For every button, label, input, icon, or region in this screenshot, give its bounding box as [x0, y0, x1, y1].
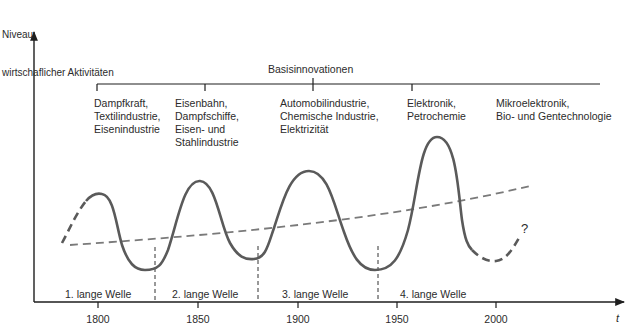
innovation-group-3: Automobilindustrie, Chemische Industrie,… — [280, 97, 379, 136]
wave-label-1: 1. lange Welle — [65, 288, 131, 301]
bracket-title: Basisinnovationen — [268, 63, 353, 76]
cycle-curve-start-dashed — [62, 201, 86, 243]
x-tick-1900: 1900 — [286, 313, 309, 326]
innovation-group-2: Eisenbahn, Dampfschiffe, Eisen- und Stah… — [175, 97, 239, 149]
innovation-group-5: Mikroelektronik, Bio- und Gentechnologie — [496, 97, 612, 123]
cycle-curve — [86, 137, 472, 270]
wave-label-2: 2. lange Welle — [172, 288, 238, 301]
y-axis-label: Niveau wirtschaflicher Aktivitäten — [2, 4, 114, 104]
innovation-group-4: Elektronik, Petrochemie — [407, 97, 466, 123]
x-tick-1850: 1850 — [186, 313, 209, 326]
y-axis-label-line2: wirtschaflicher Aktivitäten — [2, 67, 114, 80]
x-tick-2000: 2000 — [484, 313, 507, 326]
y-axis-label-line1: Niveau — [2, 29, 114, 42]
cycle-curve-end-dashed — [472, 238, 519, 261]
x-tick-1950: 1950 — [385, 313, 408, 326]
future-question-mark: ? — [521, 222, 528, 235]
wave-label-4: 4. lange Welle — [400, 288, 466, 301]
x-axis-label: t — [616, 312, 619, 325]
x-axis-ticks — [98, 302, 496, 308]
wave-label-3: 3. lange Welle — [282, 288, 348, 301]
x-tick-1800: 1800 — [86, 313, 109, 326]
innovation-bracket — [97, 78, 600, 91]
kondratieff-diagram: Niveau wirtschaflicher Aktivitäten Basis… — [0, 0, 636, 336]
innovation-group-1: Dampfkraft, Textilindustrie, Eisenindust… — [94, 97, 161, 136]
